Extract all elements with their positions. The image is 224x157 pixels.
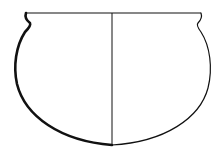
pottery-drawing xyxy=(0,0,224,157)
vessel-profile-svg xyxy=(0,0,224,157)
